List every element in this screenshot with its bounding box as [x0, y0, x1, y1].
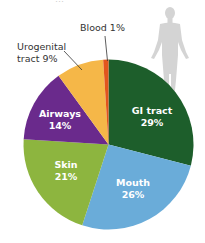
urogenital-label-line1: Urogenital: [17, 41, 66, 53]
mouth-label-pct: 26%: [122, 189, 145, 200]
airways-label-pct: 14%: [49, 120, 72, 131]
mouth-label-name: Mouth: [116, 177, 150, 188]
blood-leader-line: [105, 36, 108, 61]
blood-label: Blood 1%: [80, 22, 125, 34]
pie-slices: [24, 60, 194, 230]
skin-label-name: Skin: [54, 159, 77, 170]
skin-label-pct: 21%: [55, 171, 78, 182]
airways-label-name: Airways: [39, 108, 81, 119]
gi-label-pct: 29%: [141, 117, 164, 128]
urogenital-leader-line: [64, 51, 82, 70]
pie-chart: GI tract 29% Mouth 26% Skin 21% Airways …: [0, 0, 205, 243]
urogenital-label-line2: tract 9%: [17, 53, 58, 65]
gi-label-name: GI tract: [132, 105, 173, 116]
